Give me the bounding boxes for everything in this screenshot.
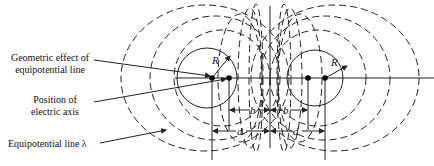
label-geometric-effect-line1: Geometric effect of <box>4 52 96 64</box>
label-electric-axis-position: Position of electric axis <box>20 94 90 118</box>
leader-position <box>94 79 226 102</box>
left-radius-label: R <box>211 54 219 66</box>
label-geometric-effect-line2: equipotential line <box>4 64 96 76</box>
d-left-label: d <box>237 125 243 137</box>
label-equipotential-line: Equipotential line λ <box>8 138 87 150</box>
label-position-line2: electric axis <box>20 106 90 118</box>
label-position-line1: Position of <box>20 94 90 106</box>
b-right-label: b <box>283 104 289 116</box>
b-left-label: b <box>250 104 256 116</box>
leader-equipotential <box>100 130 166 143</box>
d-right-label: d <box>293 125 299 137</box>
right-radius-label: R <box>330 56 338 68</box>
label-geometric-effect: Geometric effect of equipotential line <box>4 52 96 76</box>
